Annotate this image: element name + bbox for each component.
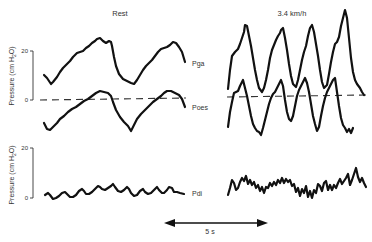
walk-poes-trace: [228, 78, 353, 135]
top-y-axis-label: Pressure (cm H2O): [8, 46, 17, 105]
pressure-traces-figure: Rest 3.4 km/h 20 0 Pressure (cm H2O) 20 …: [0, 0, 372, 242]
arrow-right-icon: [257, 219, 268, 227]
rest-poes-trace: [44, 91, 185, 131]
walk-pdi-trace: [228, 168, 366, 198]
bottom-tick-20: 20: [21, 145, 28, 151]
bottom-y-axis: 20 0 Pressure (cm H2O): [8, 145, 33, 205]
top-tick-0: 0: [25, 97, 29, 103]
arrow-left-icon: [164, 219, 175, 227]
pdi-label: Pdi: [192, 190, 203, 197]
rest-pga-trace: [44, 38, 185, 84]
condition-label-rest: Rest: [112, 9, 128, 18]
poes-label: Poes: [192, 104, 208, 111]
bottom-y-axis-label: Pressure (cm H2O): [8, 145, 17, 204]
walk-pga-trace: [228, 10, 364, 95]
bottom-tick-0: 0: [25, 195, 29, 201]
condition-label-walking: 3.4 km/h: [278, 9, 307, 18]
top-tick-20: 20: [21, 48, 28, 54]
time-scale-bar: 5 s: [164, 219, 268, 235]
time-scale-label: 5 s: [205, 228, 215, 235]
top-y-axis: 20 0 Pressure (cm H2O): [8, 46, 33, 105]
pga-label: Pga: [192, 60, 205, 68]
rest-pdi-trace: [45, 184, 184, 199]
